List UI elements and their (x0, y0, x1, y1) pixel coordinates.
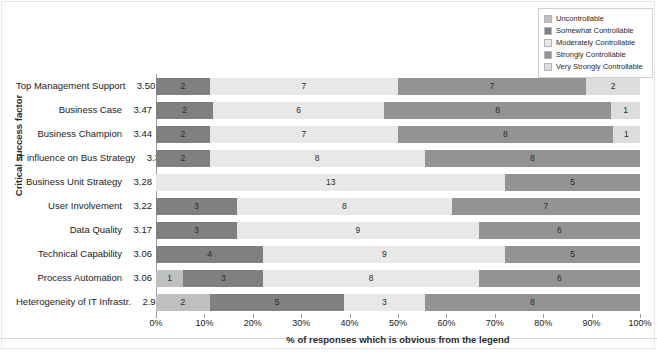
bar-segment[interactable]: 9 (237, 222, 479, 239)
bar-row: 387 (156, 198, 640, 215)
bar-row: 135 (156, 174, 640, 191)
bar-segment-label: 2 (180, 81, 185, 91)
bar-segment[interactable]: 8 (263, 270, 478, 287)
chart-legend: UncontrollableSomewhat ControllableModer… (538, 8, 653, 78)
x-axis-tick-label: 20% (231, 318, 275, 328)
bar-segment[interactable]: 6 (213, 102, 384, 119)
bar-segment[interactable]: 6 (479, 222, 640, 239)
bar-segment[interactable]: 7 (210, 126, 398, 143)
legend-item-label: Uncontrollable (556, 14, 604, 23)
category-name: Heterogeneity of IT Infrastr. (16, 296, 131, 307)
category-score: 3.44 (128, 122, 152, 146)
bar-segment-label: 9 (382, 249, 387, 259)
legend-swatch-icon (544, 27, 552, 35)
bar-segment-label: 4 (207, 249, 212, 259)
bar-segment-label: 2 (611, 81, 616, 91)
bar-segment[interactable]: 2 (156, 150, 210, 167)
bar-segment[interactable]: 5 (505, 174, 640, 191)
bar-segment-label: 1 (624, 129, 629, 139)
category-name: Top Management Support (16, 80, 125, 91)
legend-item[interactable]: Uncontrollable (544, 13, 648, 24)
legend-swatch-icon (544, 39, 552, 47)
bar-segment[interactable]: 8 (384, 102, 611, 119)
bar-segment[interactable]: 8 (210, 150, 425, 167)
bar-row: 2772 (156, 78, 640, 95)
bar-row: 2781 (156, 126, 640, 143)
bar-segment-label: 2 (180, 297, 185, 307)
bar-segment-label: 1 (623, 105, 628, 115)
category-name: IT influence on Bus Strategy (16, 152, 135, 163)
legend-item[interactable]: Moderately Controllable (544, 37, 648, 48)
x-axis-tick-label: 90% (570, 318, 614, 328)
bar-segment-label: 3 (221, 273, 226, 283)
bar-segment[interactable]: 7 (210, 78, 398, 95)
bar-row: 288 (156, 150, 640, 167)
bar-row: 495 (156, 246, 640, 263)
bar-segment[interactable]: 4 (156, 246, 263, 263)
x-axis-tick-label: 60% (424, 318, 468, 328)
y-axis-label-row: Business Case3.47 (16, 98, 152, 122)
x-axis-tick-label: 0% (134, 318, 178, 328)
bar-segment-label: 8 (495, 105, 500, 115)
bar-segment[interactable]: 2 (586, 78, 640, 95)
bar-segment-label: 8 (315, 153, 320, 163)
bar-row: 2681 (156, 102, 640, 119)
legend-swatch-icon (544, 51, 552, 59)
y-axis-label-row: Data Quality3.17 (16, 218, 152, 242)
bar-segment[interactable]: 5 (210, 294, 345, 311)
bar-segment[interactable]: 8 (425, 294, 640, 311)
bar-segment[interactable]: 7 (452, 198, 640, 215)
x-axis-tick-label: 50% (376, 318, 420, 328)
bar-segment[interactable]: 13 (156, 174, 505, 191)
legend-item-label: Very Strongly Controllable (556, 62, 643, 71)
category-score: 3.17 (128, 218, 152, 242)
bar-segment-label: 2 (180, 153, 185, 163)
category-name: Process Automation (38, 272, 123, 283)
bar-segment[interactable]: 3 (344, 294, 424, 311)
bar-segment-label: 2 (180, 129, 185, 139)
bar-segment[interactable]: 2 (156, 102, 213, 119)
legend-item[interactable]: Strongly Controllable (544, 49, 648, 60)
legend-item[interactable]: Somewhat Controllable (544, 25, 648, 36)
bar-segment[interactable]: 9 (263, 246, 505, 263)
bar-segment[interactable]: 3 (156, 222, 237, 239)
bar-segment[interactable]: 1 (611, 102, 640, 119)
category-score: 3.28 (128, 170, 152, 194)
y-axis-category-labels: Top Management Support3.50Business Case3… (16, 74, 152, 314)
bar-segment[interactable]: 3 (156, 198, 237, 215)
bar-segment-label: 7 (490, 81, 495, 91)
bar-segment[interactable]: 5 (505, 246, 640, 263)
bar-segment[interactable]: 8 (425, 150, 640, 167)
x-axis-tick-label: 30% (279, 318, 323, 328)
bar-segment[interactable]: 2 (156, 294, 210, 311)
y-axis-label-row: IT influence on Bus Strategy3.33 (16, 146, 152, 170)
bar-segment[interactable]: 8 (398, 126, 613, 143)
bar-segment[interactable]: 1 (613, 126, 640, 143)
x-axis-tick-label: 10% (182, 318, 226, 328)
legend-swatch-icon (544, 15, 552, 23)
category-score: 3.50 (131, 74, 155, 98)
bar-segment[interactable]: 7 (398, 78, 586, 95)
category-name: Business Champion (38, 128, 123, 139)
bar-segment[interactable]: 3 (183, 270, 263, 287)
bar-segment-label: 8 (369, 273, 374, 283)
y-axis-label-row: Business Champion3.44 (16, 122, 152, 146)
bar-segment[interactable]: 1 (156, 270, 183, 287)
bar-segment[interactable]: 8 (237, 198, 452, 215)
category-name: Technical Capability (38, 248, 122, 259)
y-axis-label-row: User Involvement3.22 (16, 194, 152, 218)
bar-segment-label: 5 (275, 297, 280, 307)
bar-segment-label: 8 (530, 297, 535, 307)
legend-item[interactable]: Very Strongly Controllable (544, 61, 648, 72)
bar-segment[interactable]: 2 (156, 126, 210, 143)
x-axis-tick-label: 80% (521, 318, 565, 328)
bar-segment[interactable]: 6 (479, 270, 640, 287)
legend-item-label: Moderately Controllable (556, 38, 635, 47)
y-axis-label-row: Heterogeneity of IT Infrastr.2.94 (16, 290, 152, 314)
category-score: 3.22 (128, 194, 152, 218)
bar-segment[interactable]: 2 (156, 78, 210, 95)
category-name: Data Quality (70, 224, 122, 235)
category-score: 3.06 (128, 242, 152, 266)
bar-segment-label: 5 (570, 249, 575, 259)
legend-swatch-icon (544, 63, 552, 71)
